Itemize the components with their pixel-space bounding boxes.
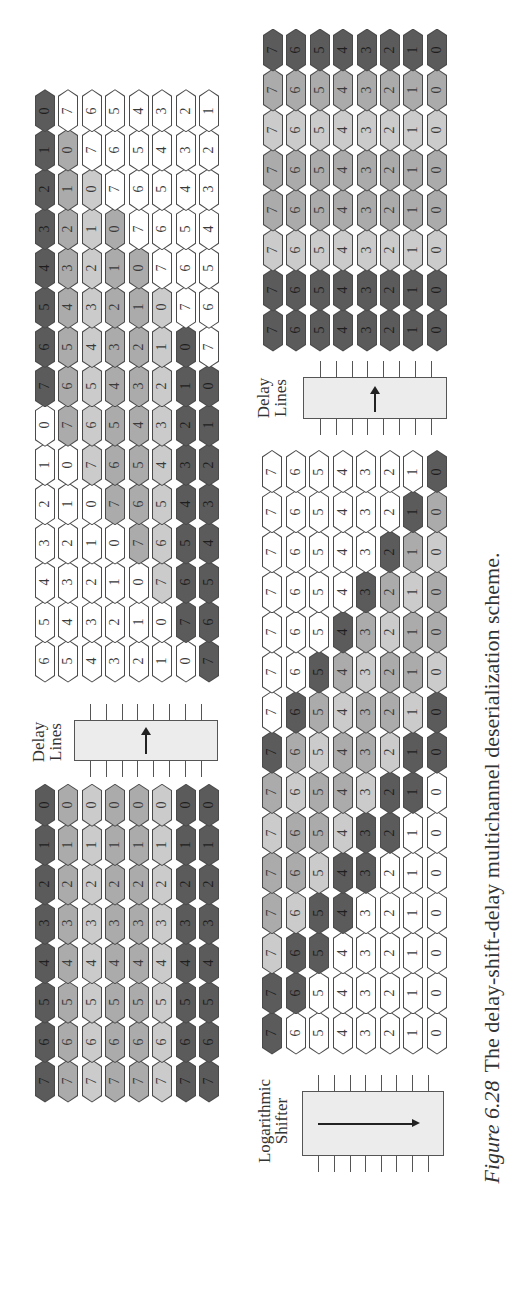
bit-cell-mid: 2 (380, 570, 400, 613)
bit-cell-mid: 1 (129, 286, 149, 329)
bit-cell-white: 4 (333, 570, 353, 613)
bit-cell-white: 2 (199, 129, 219, 172)
bit-cell-light: 7 (262, 811, 282, 854)
bit-cell-light: 6 (286, 109, 306, 152)
bit-value: 4 (336, 87, 350, 94)
bit-value: 0 (38, 107, 52, 114)
bit-value: 1 (155, 658, 169, 665)
bit-cell-dark: 2 (380, 811, 400, 854)
bit-cell-dark: 2 (380, 29, 400, 72)
bit-value: 2 (383, 167, 397, 174)
bit-value: 1 (406, 629, 420, 636)
bit-value: 6 (202, 1038, 216, 1045)
bit-value: 2 (202, 147, 216, 154)
bit-value: 4 (336, 167, 350, 174)
bit-value: 7 (265, 588, 279, 595)
bit-cell-mid: 0 (427, 149, 447, 192)
bit-value: 7 (132, 1078, 146, 1085)
bit-cell-white: 6 (199, 286, 219, 329)
bit-cell-mid: 0 (427, 490, 447, 533)
bit-value: 0 (132, 579, 146, 586)
bit-cell-white: 2 (176, 89, 196, 132)
bit-value: 3 (360, 87, 374, 94)
bit-value: 3 (359, 468, 373, 475)
bit-cell-dark: 7 (263, 29, 283, 72)
bit-value: 7 (265, 749, 279, 756)
bit-cell-light: 0 (427, 109, 447, 152)
bit-value: 0 (430, 1030, 444, 1037)
bit-cell-mid: 7 (105, 482, 125, 525)
bit-cell-dark: 7 (199, 640, 219, 683)
bit-cell-mid: 6 (129, 482, 149, 525)
bit-value: 1 (406, 468, 420, 475)
bit-value: 5 (312, 709, 326, 716)
bit-cell-mid: 5 (310, 189, 330, 232)
bit-cell-light: 3 (152, 902, 172, 945)
bit-cell-mid: 6 (286, 69, 306, 112)
bit-value: 1 (108, 579, 122, 586)
bit-cell-white: 5 (309, 1012, 329, 1055)
bit-cell-mid: 5 (309, 811, 329, 854)
bit-value: 3 (155, 107, 169, 114)
bit-value: 0 (155, 304, 169, 311)
bit-cell-dark: 3 (356, 851, 376, 894)
bit-cell-white: 2 (380, 1012, 400, 1055)
bit-value: 5 (108, 999, 122, 1006)
bit-value: 6 (61, 382, 75, 389)
bit-cell-dark: 6 (199, 1020, 219, 1063)
bit-value: 3 (360, 127, 374, 134)
bit-value: 5 (313, 287, 327, 294)
bit-value: 6 (289, 87, 303, 94)
bit-value: 1 (61, 186, 75, 193)
bit-value: 2 (61, 881, 75, 888)
bit-cell-light: 0 (152, 784, 172, 827)
bit-cell-white: 5 (309, 490, 329, 533)
bit-cell-mid: 5 (58, 325, 78, 368)
bit-cell-mid: 4 (333, 149, 353, 192)
bit-value: 7 (265, 909, 279, 916)
bit-cell-white: 0 (427, 771, 447, 814)
bit-cell-light: 3 (356, 651, 376, 694)
bit-cell-white: 1 (403, 1012, 423, 1055)
bit-cell-mid: 3 (357, 149, 377, 192)
bit-cell-dark: 2 (380, 771, 400, 814)
bit-cell-light: 4 (152, 941, 172, 984)
bit-cell-white: 5 (58, 640, 78, 683)
bit-cell-white: 7 (152, 247, 172, 290)
bit-value: 4 (336, 287, 350, 294)
bit-cell-white: 0 (82, 482, 102, 525)
bit-value: 7 (61, 107, 75, 114)
bit-value: 1 (38, 147, 52, 154)
deserialization-figure: 7654321076543210765432107654321076543210… (0, 0, 512, 1302)
bit-value: 6 (179, 265, 193, 272)
bit-cell-dark: 2 (35, 863, 55, 906)
bit-cell-mid: 0 (129, 247, 149, 290)
bit-cell-light: 5 (82, 981, 102, 1024)
bit-cell-light: 1 (403, 229, 423, 272)
signal-line (106, 704, 107, 720)
signal-line (153, 704, 154, 720)
bit-cell-dark: 0 (427, 731, 447, 774)
bit-cell-mid: 1 (403, 149, 423, 192)
bit-cell-dark: 7 (35, 364, 55, 407)
bit-value: 6 (289, 829, 303, 836)
bit-value: 5 (312, 468, 326, 475)
bit-value: 2 (202, 461, 216, 468)
bit-cell-mid: 5 (129, 443, 149, 486)
bit-value: 6 (179, 579, 193, 586)
bit-value: 1 (406, 127, 420, 134)
bit-value: 7 (132, 225, 146, 232)
signal-line (137, 761, 138, 777)
bit-value: 2 (383, 588, 397, 595)
bit-cell-mid: 6 (286, 811, 306, 854)
bit-cell-white: 4 (152, 129, 172, 172)
bit-value: 5 (61, 343, 75, 350)
bit-cell-white: 6 (35, 640, 55, 683)
bit-value: 1 (132, 618, 146, 625)
bit-value: 1 (406, 709, 420, 716)
bit-cell-dark: 3 (35, 902, 55, 945)
bit-value: 6 (289, 247, 303, 254)
bit-value: 7 (265, 869, 279, 876)
bit-value: 1 (85, 841, 99, 848)
bit-value: 1 (406, 87, 420, 94)
